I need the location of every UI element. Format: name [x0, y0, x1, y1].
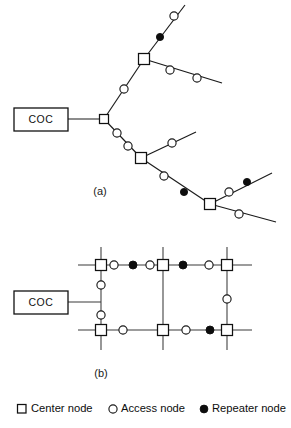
- access-node[interactable]: [97, 281, 105, 289]
- coc-box-b[interactable]: COC: [14, 291, 68, 314]
- legend-label-repeater-node: Repeater node: [212, 402, 286, 414]
- repeater-node[interactable]: [179, 261, 187, 269]
- edge-upper-east-spur: [144, 59, 222, 83]
- coc-box-b-label: COC: [28, 296, 53, 308]
- legend-label-center-node: Center node: [31, 402, 93, 414]
- coc-box-a-label: COC: [28, 113, 53, 125]
- legend: Center node Access node Repeater node: [18, 402, 287, 414]
- panel-a-access-nodes: [113, 12, 243, 218]
- center-node[interactable]: [136, 153, 147, 164]
- repeater-node[interactable]: [156, 33, 163, 40]
- legend-item-repeater-node: Repeater node: [200, 402, 286, 414]
- center-node[interactable]: [158, 260, 169, 271]
- edge-far-northeast-spur: [210, 173, 272, 204]
- access-node[interactable]: [193, 74, 201, 82]
- panel-a-repeater-nodes: [156, 33, 250, 195]
- legend-item-access-node: Access node: [109, 402, 185, 414]
- panel-b-repeater-nodes: [129, 261, 214, 334]
- center-node[interactable]: [96, 260, 107, 271]
- legend-label-access-node: Access node: [121, 402, 185, 414]
- coc-box-a[interactable]: COC: [14, 108, 68, 131]
- access-node[interactable]: [166, 66, 174, 74]
- repeater-node[interactable]: [243, 178, 250, 185]
- panel-b-access-nodes: [97, 261, 231, 334]
- center-node-icon: [18, 405, 27, 414]
- access-node[interactable]: [113, 129, 121, 137]
- access-node[interactable]: [124, 142, 132, 150]
- access-node[interactable]: [225, 188, 233, 196]
- access-node-icon: [109, 405, 117, 413]
- center-node[interactable]: [139, 54, 150, 65]
- center-node[interactable]: [205, 199, 216, 210]
- center-node[interactable]: [96, 325, 107, 336]
- repeater-node[interactable]: [129, 261, 137, 269]
- panel-a-caption: (a): [93, 185, 106, 197]
- access-node[interactable]: [223, 295, 231, 303]
- panel-b-grid-topology: COC: [14, 247, 252, 379]
- center-node[interactable]: [158, 325, 169, 336]
- access-node[interactable]: [235, 210, 243, 218]
- repeater-node[interactable]: [206, 326, 214, 334]
- access-node[interactable]: [160, 172, 168, 180]
- access-node[interactable]: [110, 261, 118, 269]
- access-node[interactable]: [97, 311, 105, 319]
- access-node[interactable]: [168, 139, 176, 147]
- panel-a-tree-topology: COC: [14, 5, 276, 222]
- figure-container: COC: [0, 0, 291, 428]
- center-node[interactable]: [222, 260, 233, 271]
- access-node[interactable]: [146, 261, 154, 269]
- access-node[interactable]: [170, 12, 178, 20]
- legend-item-center-node: Center node: [18, 402, 93, 414]
- repeater-node-icon: [200, 405, 208, 413]
- access-node[interactable]: [205, 261, 213, 269]
- repeater-node[interactable]: [180, 188, 187, 195]
- access-node[interactable]: [182, 326, 190, 334]
- center-node[interactable]: [222, 325, 233, 336]
- edge-upper-north-spur: [144, 5, 185, 59]
- edge-lower-southeast-branch: [141, 158, 210, 204]
- network-topology-figure: COC: [0, 0, 291, 428]
- access-node[interactable]: [119, 326, 127, 334]
- panel-b-caption: (b): [94, 367, 107, 379]
- access-node[interactable]: [120, 85, 128, 93]
- center-node[interactable]: [100, 115, 109, 124]
- panel-b-center-nodes: [96, 260, 233, 336]
